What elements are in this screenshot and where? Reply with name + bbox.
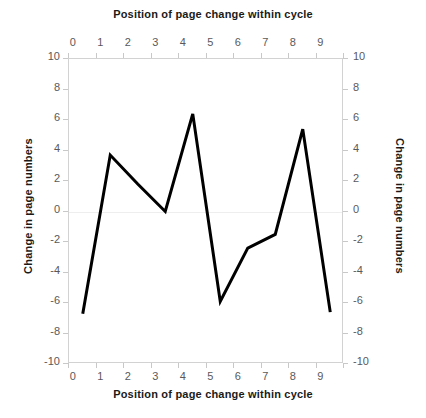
y-tick-label-left-8: 8 (20, 81, 60, 93)
y-tick-label-left-6: 6 (20, 111, 60, 123)
y-tick-label-left--10: -10 (20, 355, 60, 367)
x-tick-label-bottom-6: 6 (235, 370, 236, 375)
x-tick-label-bottom-7: 7 (262, 370, 263, 375)
y-tick-label-left-4: 4 (20, 142, 60, 154)
x-tick-label-top-3: 3 (152, 36, 153, 41)
x-tick-label-bottom-4: 4 (180, 370, 181, 375)
y-tick-label-right-10: 10 (353, 50, 393, 62)
x-tick-label-bottom-5: 5 (207, 370, 208, 375)
x-tick-label-top-8: 8 (290, 36, 291, 41)
y-tick-label-left-10: 10 (20, 50, 60, 62)
y-tick-label-right-2: 2 (353, 172, 393, 184)
y-tick-label-left--6: -6 (20, 294, 60, 306)
x-tick-label-top-9: 9 (317, 36, 318, 41)
y-tick-label-left-0: 0 (20, 203, 60, 215)
y-tick-label-left--2: -2 (20, 233, 60, 245)
x-tick-label-bottom-2: 2 (125, 370, 126, 375)
y-tick-label-right--10: -10 (353, 355, 393, 367)
x-tick-label-top-2: 2 (125, 36, 126, 41)
y-tick-label-left--4: -4 (20, 264, 60, 276)
y-tick-label-left--8: -8 (20, 325, 60, 337)
x-tick-label-top-1: 1 (97, 36, 98, 41)
y-tick-label-right-8: 8 (353, 81, 393, 93)
chart-figure: Position of page change within cycle Pos… (0, 0, 426, 418)
x-tick-label-top-6: 6 (235, 36, 236, 41)
y-tick-label-right-4: 4 (353, 142, 393, 154)
x-tick-label-top-7: 7 (262, 36, 263, 41)
y-tick-label-right--4: -4 (353, 264, 393, 276)
y-tick-label-right--8: -8 (353, 325, 393, 337)
x-tick-label-bottom-1: 1 (97, 370, 98, 375)
series-polyline (83, 114, 331, 314)
y-tick-label-right--2: -2 (353, 233, 393, 245)
y-tick-label-right--6: -6 (353, 294, 393, 306)
x-tick-label-bottom-0: 0 (70, 370, 71, 375)
x-tick-mark-top-10 (343, 53, 344, 58)
x-tick-label-bottom-9: 9 (317, 370, 318, 375)
y-tick-label-right-0: 0 (353, 203, 393, 215)
line-series (69, 59, 344, 364)
x-tick-label-bottom-8: 8 (290, 370, 291, 375)
plot-area (68, 58, 343, 363)
x-tick-label-bottom-3: 3 (152, 370, 153, 375)
y-tick-label-left-2: 2 (20, 172, 60, 184)
x-tick-label-top-0: 0 (70, 36, 71, 41)
top-axis-title: Position of page change within cycle (0, 8, 426, 20)
bottom-axis-title: Position of page change within cycle (0, 388, 426, 400)
y-tick-label-right-6: 6 (353, 111, 393, 123)
right-axis-title: Change in page numbers (394, 106, 406, 306)
x-tick-label-top-5: 5 (207, 36, 208, 41)
x-tick-label-top-4: 4 (180, 36, 181, 41)
